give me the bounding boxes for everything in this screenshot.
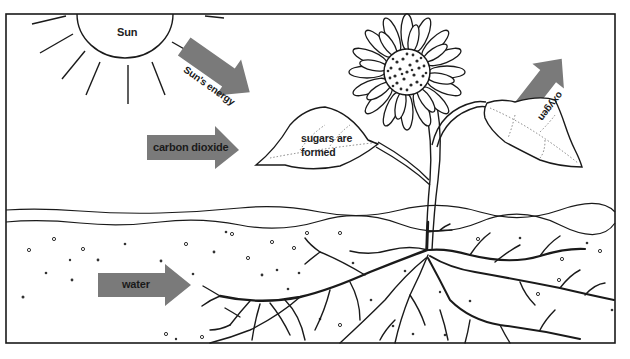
sugars-formed-label-line2: formed [301,146,335,158]
sugars-formed-label-line1: sugars are [301,132,352,144]
water-label: water [122,278,150,290]
diagram-canvas [0,0,630,359]
sun-label: Sun [117,26,137,38]
carbon-dioxide-label: carbon dioxide [153,141,228,153]
sunflower-icon [349,14,465,130]
photosynthesis-diagram: Sun Sun's energy carbon dioxide sugars a… [0,0,630,359]
